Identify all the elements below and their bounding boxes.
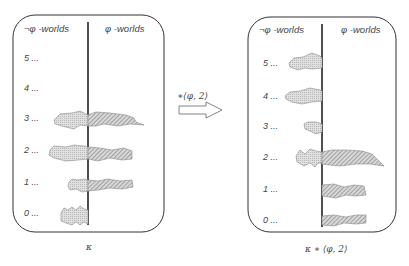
right-row-5-notphi-blob <box>289 53 322 70</box>
left-caption-kappa: κ <box>85 242 92 252</box>
left-row-3-phi-blob <box>88 112 144 126</box>
right-row-3-label: 3 ... <box>263 121 278 131</box>
right-arrow-icon <box>179 102 222 118</box>
left-row-2-label: 2 ... <box>23 145 39 155</box>
right-row-2-notphi-blob <box>296 149 322 167</box>
revision-operator: ∗⟨φ, 2⟩ <box>177 91 222 118</box>
left-row-1-label: 1 ... <box>24 177 39 187</box>
ranking-revision-diagram: ¬φ -worlds φ -worlds 5 ... 4 ... 3 ... 2… <box>0 0 409 266</box>
operator-label: ∗⟨φ, 2⟩ <box>177 91 208 101</box>
right-row-1-label: 1 ... <box>263 184 278 194</box>
left-row-0-notphi-blob <box>61 206 88 225</box>
right-header-phi: φ -worlds <box>341 24 381 35</box>
right-ranking-panel: ¬φ -worlds φ -worlds 5 ... 4 ... 3 ... 2… <box>248 17 396 254</box>
left-header-phi: φ -worlds <box>105 23 145 34</box>
left-row-3-label: 3 ... <box>24 113 39 123</box>
left-row-4-label: 4 ... <box>24 83 39 93</box>
left-row-2-notphi-blob <box>49 145 88 161</box>
right-caption-kappa-revised: κ ∗ ⟨φ, 2⟩ <box>304 244 348 254</box>
left-row-0-label: 0 ... <box>24 208 39 218</box>
left-row-2-phi-blob <box>88 147 132 161</box>
right-row-5-label: 5 ... <box>263 58 278 68</box>
left-row-5-label: 5 ... <box>24 53 39 63</box>
right-row-3-notphi-blob <box>304 122 322 134</box>
right-row-1-phi-blob <box>322 184 366 198</box>
right-row-2-label: 2 ... <box>262 152 278 162</box>
left-row-3-notphi-blob <box>54 111 88 129</box>
right-row-4-label: 4 ... <box>263 91 278 101</box>
right-row-0-label: 0 ... <box>263 215 278 225</box>
left-row-1-phi-blob <box>88 179 133 191</box>
right-row-2-phi-blob <box>322 150 384 166</box>
left-header-not-phi: ¬φ -worlds <box>24 23 69 34</box>
right-row-0-phi-blob <box>322 215 366 226</box>
left-ranking-panel: ¬φ -worlds φ -worlds 5 ... 4 ... 3 ... 2… <box>13 15 164 252</box>
right-row-4-notphi-blob <box>285 88 322 104</box>
left-row-1-notphi-blob <box>68 179 88 192</box>
right-header-not-phi: ¬φ -worlds <box>259 24 304 35</box>
